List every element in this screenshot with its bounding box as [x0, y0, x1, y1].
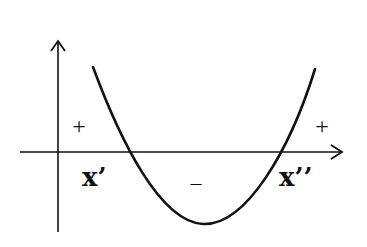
- sign-left: +: [72, 113, 86, 139]
- parabola-curve: [93, 67, 315, 224]
- parabola-sign-diagram: + – + x’ x’’: [0, 0, 367, 247]
- sign-middle: –: [190, 170, 203, 195]
- root-label-left: x’: [82, 162, 107, 192]
- x-axis: [20, 145, 342, 159]
- sign-right: +: [315, 113, 329, 139]
- root-label-right: x’’: [279, 162, 313, 192]
- y-axis: [51, 41, 65, 232]
